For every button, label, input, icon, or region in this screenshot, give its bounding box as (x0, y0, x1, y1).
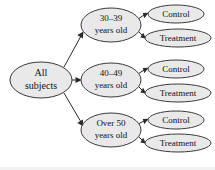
diagram-canvas: All subjects 30–39 years old 40–49 years… (0, 0, 215, 170)
bottom-edge-strip (0, 167, 215, 170)
node-age-over-50[interactable]: Over 50 years old (81, 113, 141, 147)
node-age-30-39[interactable]: 30–39 years old (81, 8, 141, 42)
node-label-line2: subjects (25, 80, 57, 91)
node-label-line1: All (35, 67, 48, 78)
node-treatment-30-39[interactable]: Treatment (145, 29, 211, 47)
node-label-line2: years old (95, 130, 128, 140)
node-label-line2: years old (95, 25, 128, 35)
edge-age-40-49-to-control (138, 68, 149, 74)
node-label: Control (162, 9, 190, 19)
node-label-line1: 30–39 (100, 13, 123, 23)
node-control-over-50[interactable]: Control (148, 111, 204, 129)
edge-age-30-39-to-control (138, 13, 149, 19)
node-treatment-40-49[interactable]: Treatment (145, 84, 211, 102)
node-label: Treatment (160, 138, 197, 148)
node-label: Control (162, 64, 190, 74)
node-label: Treatment (160, 88, 197, 98)
node-label-line1: 40–49 (100, 68, 123, 78)
node-label-line2: years old (95, 80, 128, 90)
edge-all-subjects-to-age-over-50 (64, 93, 84, 127)
node-age-40-49[interactable]: 40–49 years old (81, 63, 141, 97)
edge-all-subjects-to-age-30-39 (64, 32, 84, 68)
node-label: Treatment (160, 33, 197, 43)
stratified-sampling-diagram: All subjects 30–39 years old 40–49 years… (0, 0, 215, 170)
node-label: Control (162, 115, 190, 125)
edge-line (64, 36, 81, 67)
node-treatment-over-50[interactable]: Treatment (145, 134, 211, 152)
node-label-line1: Over 50 (96, 118, 126, 128)
edge-line (64, 93, 81, 122)
node-all-subjects[interactable]: All subjects (10, 62, 72, 98)
edge-age-over-50-to-control (138, 119, 149, 125)
node-control-30-39[interactable]: Control (148, 5, 204, 23)
node-control-40-49[interactable]: Control (148, 60, 204, 78)
